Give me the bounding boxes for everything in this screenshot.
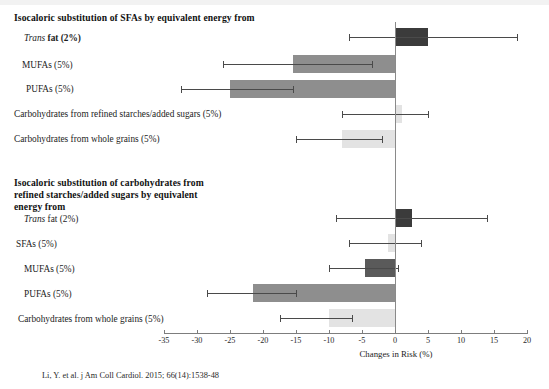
x-tick-10 [461,330,462,334]
x-tick--5 [362,330,363,334]
error-bar-2-1 [336,218,488,219]
axis-title: Changes in Risk (%) [316,349,476,359]
bar-2-3 [365,259,395,277]
error-bar-2-5 [280,318,353,319]
error-cap-1-4-low [342,111,343,118]
row-label-mufas-2: MUFAs (5%) [24,264,75,275]
error-cap-2-2-high [421,240,422,247]
bar-2-5 [329,309,395,327]
bar-1-4 [395,105,402,123]
x-tick-label-10: 10 [446,336,476,345]
bar-1-1 [395,28,428,46]
bar-2-4 [253,284,395,302]
error-bar-1-3 [181,89,293,90]
row-label-mufas-1: MUFAs (5%) [22,60,73,71]
row-label-pufas-2: PUFAs (5%) [24,289,72,300]
x-tick-label--20: -20 [248,336,278,345]
x-tick--35 [164,330,165,334]
x-tick-5 [428,330,429,334]
top-divider [0,0,549,5]
row-label-trans-fat-2: Trans fat (2%) [24,214,78,225]
x-tick-label-15: 15 [479,336,509,345]
x-tick--20 [263,330,264,334]
error-cap-2-2-low [349,240,350,247]
error-cap-1-2-high [372,61,373,68]
figure-slide: Isocaloric substitution of SFAs by equiv… [0,0,549,389]
x-tick-label--25: -25 [215,336,245,345]
section-title-1: Isocaloric substitution of SFAs by equiv… [14,12,444,24]
x-tick-label-5: 5 [413,336,443,345]
x-tick-label-0: 0 [380,336,410,345]
x-tick--10 [329,330,330,334]
citation-text: Li, Y. et al. j Am Coll Cardiol. 2015; 6… [42,371,219,380]
row-label-italic: Trans [24,33,45,43]
x-tick-label--10: -10 [314,336,344,345]
x-tick-label--5: -5 [347,336,377,345]
error-cap-2-3-low [329,265,330,272]
error-cap-2-5-high [352,315,353,322]
error-cap-2-3-high [398,265,399,272]
error-cap-1-5-high [382,136,383,143]
bar-2-1 [395,209,412,227]
row-label-italic: Trans [24,214,45,224]
x-tick--25 [230,330,231,334]
row-label-refined-starches-1: Carbohydrates from refined starches/adde… [14,109,221,120]
error-cap-1-5-low [296,136,297,143]
error-cap-2-1-high [487,215,488,222]
error-cap-1-2-low [223,61,224,68]
x-tick-0 [395,330,396,334]
section-title-2: Isocaloric substitution of carbohydrates… [14,177,214,213]
error-bar-2-3 [329,268,398,269]
row-label-trans-fat-1: Trans fat (2%) [24,33,81,44]
zero-reference-line [395,22,396,333]
x-tick-20 [527,330,528,334]
x-tick-label-20: 20 [512,336,542,345]
error-bar-2-2 [349,243,422,244]
error-bar-1-4 [342,114,428,115]
x-tick-label--30: -30 [182,336,212,345]
row-label-whole-grains-2: Carbohydrates from whole grains (5%) [18,314,164,325]
bar-1-5 [342,130,395,148]
error-cap-1-1-low [349,34,350,41]
error-cap-2-1-low [336,215,337,222]
error-bar-2-4 [207,293,296,294]
row-label-bold: fat (2%) [48,33,81,43]
x-tick--30 [197,330,198,334]
row-label-rest: fat (2%) [48,214,79,224]
row-label-whole-grains-1: Carbohydrates from whole grains (5%) [14,134,160,145]
x-tick--15 [296,330,297,334]
x-tick-label--15: -15 [281,336,311,345]
bar-1-2 [293,55,395,73]
error-cap-1-4-high [428,111,429,118]
x-axis-line [164,333,527,334]
x-tick-15 [494,330,495,334]
error-cap-1-3-low [181,86,182,93]
error-cap-2-4-high [296,290,297,297]
row-label-sfas-2: SFAs (5%) [16,239,57,250]
error-cap-1-3-high [293,86,294,93]
error-bar-1-1 [349,37,517,38]
row-label-pufas-1: PUFAs (5%) [26,84,74,95]
x-tick-label--35: -35 [149,336,179,345]
error-bar-1-2 [223,64,372,65]
error-cap-1-1-high [517,34,518,41]
bar-2-2 [388,234,395,252]
error-bar-1-5 [296,139,382,140]
bar-1-3 [230,80,395,98]
error-cap-2-4-low [207,290,208,297]
error-cap-2-5-low [280,315,281,322]
